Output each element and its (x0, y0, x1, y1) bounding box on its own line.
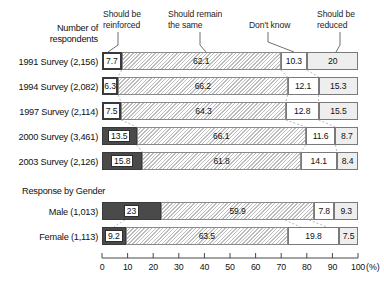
segment-reinforced: 9.2 (102, 227, 126, 245)
segment-same: 63.5 (126, 227, 289, 245)
axis-tick-40: 40 (194, 262, 214, 272)
segment-dontknow: 19.8 (288, 227, 339, 245)
axis-tick-50: 50 (220, 262, 240, 272)
axis-tick-0: 0 (92, 262, 112, 272)
segment-reduced: 7.5 (339, 227, 358, 245)
axis-tick-20: 20 (143, 262, 163, 272)
axis-tick-90: 90 (322, 262, 342, 272)
stacked-bar-chart: Should be reinforced Should remain the s… (0, 0, 384, 287)
section-label-gender: Response by Gender (22, 186, 105, 196)
segment-reinforced: 23 (102, 202, 161, 220)
axis-tick-80: 80 (297, 262, 317, 272)
row-label-male: Male (1,013) (0, 207, 98, 217)
table-row: 23 59.9 7.8 9.3 (102, 202, 358, 220)
axis-unit-label: (%) (366, 262, 380, 272)
axis-tick-60: 60 (246, 262, 266, 272)
table-row: 9.2 63.5 19.8 7.5 (102, 227, 358, 245)
segment-reduced: 9.3 (334, 202, 358, 220)
segment-same: 59.9 (161, 202, 314, 220)
axis-tick-30: 30 (169, 262, 189, 272)
axis-tick-10: 10 (118, 262, 138, 272)
row-label-female: Female (1,113) (0, 232, 98, 242)
axis-tick-70: 70 (271, 262, 291, 272)
segment-dontknow: 7.8 (314, 202, 334, 220)
